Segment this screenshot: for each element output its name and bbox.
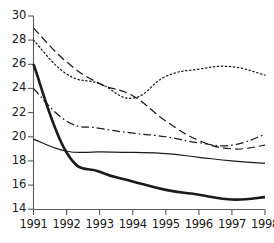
series-dashed	[34, 28, 266, 149]
y-tick-label: 18	[2, 155, 26, 167]
y-tick-label: 20	[2, 131, 26, 143]
x-tick-label: 1998	[245, 219, 274, 231]
line-chart: 302826242220181614 199119921993199419951…	[0, 0, 274, 243]
y-tick-label: 14	[2, 203, 26, 215]
y-tick-label: 16	[2, 179, 26, 191]
y-tick-label: 28	[2, 34, 26, 46]
y-tick-label: 24	[2, 82, 26, 94]
y-axis-ticks	[28, 16, 34, 209]
series-dotted	[34, 40, 266, 98]
series-dash-dot	[34, 88, 266, 145]
series-thin-solid	[34, 139, 266, 163]
series-layer	[34, 28, 266, 200]
y-tick-label: 30	[2, 10, 26, 22]
y-tick-label: 22	[2, 107, 26, 119]
series-thick-solid	[34, 64, 266, 199]
plot-area	[0, 0, 274, 243]
x-axis-ticks	[34, 210, 266, 216]
y-tick-label: 26	[2, 58, 26, 70]
